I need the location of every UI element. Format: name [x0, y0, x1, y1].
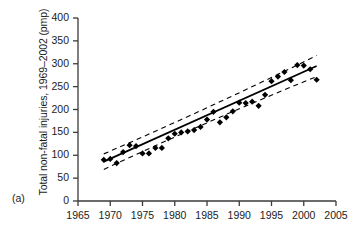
y-tick-label: 150 [37, 125, 69, 137]
data-point [165, 135, 171, 141]
data-point [249, 99, 255, 105]
y-tick-label: 350 [37, 34, 69, 46]
y-tick-label: 0 [37, 194, 69, 206]
lower-confidence-band [104, 77, 317, 170]
data-point [275, 73, 281, 79]
axes [78, 18, 336, 201]
data-point [107, 156, 113, 162]
y-tick-label: 300 [37, 57, 69, 69]
figure-panel-a: Total non-fatal injuries, 1969–2002 (pmp… [0, 0, 359, 247]
data-point [101, 157, 107, 163]
data-point [230, 108, 236, 114]
y-tick-label: 200 [37, 103, 69, 115]
data-point [204, 116, 210, 122]
y-tick-label: 250 [37, 80, 69, 92]
data-point [127, 142, 133, 148]
y-axis-ticks [73, 18, 78, 201]
data-point [159, 145, 165, 151]
data-point [217, 119, 223, 125]
x-tick-label: 2005 [316, 209, 356, 221]
data-point [256, 103, 262, 109]
x-axis-ticks [78, 201, 336, 206]
data-point [152, 145, 158, 151]
data-point [185, 128, 191, 134]
y-tick-label: 50 [37, 171, 69, 183]
data-point [114, 160, 120, 166]
data-point [139, 150, 145, 156]
data-point [294, 62, 300, 68]
y-tick-label: 100 [37, 148, 69, 160]
y-tick-label: 400 [37, 11, 69, 23]
data-point [262, 92, 268, 98]
data-point [146, 150, 152, 156]
data-point [223, 114, 229, 120]
